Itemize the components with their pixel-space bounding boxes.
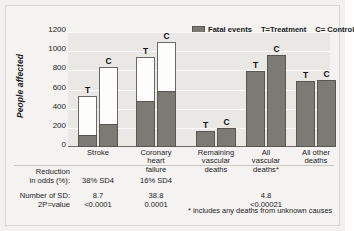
chart-frame: People affected 1200 1000 800 600 400 20… bbox=[5, 5, 340, 226]
bar-marker-C: C bbox=[217, 118, 236, 127]
y-tick-600: 600 bbox=[53, 84, 66, 92]
bar-treatment-2: T bbox=[196, 131, 215, 147]
bar-marker-T: T bbox=[136, 47, 155, 56]
bar-treatment-0: T bbox=[78, 96, 97, 147]
bar-segment-fatal bbox=[296, 81, 315, 147]
bar-marker-C: C bbox=[317, 70, 336, 79]
bar-segment-fatal bbox=[217, 128, 236, 147]
bar-segment-fatal bbox=[246, 71, 265, 147]
reduction-value-stroke: 38% SD4 bbox=[68, 177, 128, 186]
y-tick-400: 400 bbox=[53, 103, 66, 111]
stats-divider-top bbox=[14, 165, 334, 166]
footnote-text: * includes any deaths from unknown cause… bbox=[188, 206, 332, 215]
bar-segment-fatal bbox=[136, 101, 155, 147]
bar-control-3: C bbox=[267, 55, 286, 147]
y-axis-title-text: People affected bbox=[15, 54, 25, 118]
y-tick-800: 800 bbox=[53, 64, 66, 72]
bar-control-1: C bbox=[157, 42, 176, 147]
bar-marker-T: T bbox=[246, 61, 265, 70]
category-label-line: Stroke bbox=[68, 149, 128, 157]
bar-control-4: C bbox=[317, 80, 336, 147]
bar-marker-C: C bbox=[267, 45, 286, 54]
y-tick-1200: 1200 bbox=[48, 26, 66, 34]
bar-marker-T: T bbox=[296, 71, 315, 80]
bar-treatment-4: T bbox=[296, 81, 315, 147]
category-label-0: Stroke bbox=[68, 149, 128, 157]
bar-marker-T: T bbox=[78, 86, 97, 95]
bar-control-2: C bbox=[217, 128, 236, 147]
gridline-1200 bbox=[68, 32, 330, 33]
bar-segment-fatal bbox=[78, 135, 97, 147]
y-tick-0: 0 bbox=[62, 141, 66, 149]
bar-marker-T: T bbox=[196, 121, 215, 130]
category-label-4: All otherdeaths bbox=[286, 149, 346, 166]
reduction-label-line2: in odds (%): bbox=[14, 177, 70, 186]
bar-segment-fatal bbox=[317, 80, 336, 147]
bar-marker-C: C bbox=[99, 57, 118, 66]
y-tick-1000: 1000 bbox=[48, 45, 66, 53]
bar-segment-fatal bbox=[157, 91, 176, 147]
bar-treatment-1: T bbox=[136, 57, 155, 147]
bar-segment-fatal bbox=[99, 124, 118, 147]
bar-control-0: C bbox=[99, 67, 118, 148]
pvalue-stroke: <0.0001 bbox=[68, 201, 128, 210]
bar-marker-C: C bbox=[157, 32, 176, 41]
pvalue-label: 2P=value bbox=[14, 201, 70, 210]
bar-treatment-3: T bbox=[246, 71, 265, 147]
y-axis-tick-labels: 1200 1000 800 600 400 200 0 bbox=[32, 26, 66, 153]
gridline-1000 bbox=[68, 51, 330, 52]
plot-area: TCTCTCTCTC bbox=[68, 32, 330, 147]
reduction-value-coronary: 16% SD4 bbox=[126, 177, 186, 186]
bar-segment-fatal bbox=[196, 131, 215, 147]
y-tick-200: 200 bbox=[53, 122, 66, 130]
y-axis-title: People affected bbox=[14, 40, 26, 132]
bar-segment-fatal bbox=[267, 55, 286, 147]
pvalue-coronary: 0.0001 bbox=[126, 201, 186, 210]
